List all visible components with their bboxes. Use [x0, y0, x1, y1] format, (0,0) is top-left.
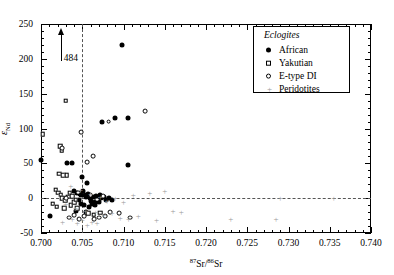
x-minor-tick [223, 230, 224, 233]
data-point-peridotites: + [108, 210, 115, 217]
x-major-tick [124, 227, 125, 233]
x-minor-tick [297, 230, 298, 233]
x-minor-tick [214, 230, 215, 233]
y-major-tick [365, 163, 371, 164]
y-minor-tick [368, 101, 371, 102]
y-minor-tick [41, 219, 44, 220]
y-major-tick [365, 233, 371, 234]
x-minor-tick [280, 230, 281, 233]
x-minor-tick [66, 230, 67, 233]
y-minor-tick [368, 38, 371, 39]
y-major-tick [365, 59, 371, 60]
x-major-tick [247, 227, 248, 233]
y-minor-tick [368, 122, 371, 123]
scatter-plot-figure: 0.7000.7050.7100.7150.7200.7250.7300.735… [0, 0, 394, 275]
x-minor-tick [346, 230, 347, 233]
x-major-tick [124, 24, 125, 30]
data-point-e-type-di [79, 130, 84, 135]
data-point-african [125, 162, 130, 167]
y-minor-tick [368, 52, 371, 53]
legend-label: Peridotites [279, 84, 320, 94]
x-minor-tick [74, 24, 75, 27]
x-major-tick [247, 24, 248, 30]
data-point-peridotites: + [277, 195, 284, 202]
y-major-tick [41, 163, 47, 164]
data-point-peridotites: + [82, 207, 89, 214]
x-minor-tick [115, 24, 116, 27]
y-minor-tick [41, 52, 44, 53]
y-minor-tick [368, 177, 371, 178]
data-point-peridotites: + [153, 217, 160, 224]
x-minor-tick [214, 24, 215, 27]
y-minor-tick [41, 205, 44, 206]
y-tick-label: 0 [2, 193, 33, 203]
data-point-african [119, 42, 124, 47]
data-point-e-type-di [143, 109, 148, 114]
y-minor-tick [41, 142, 44, 143]
x-minor-tick [181, 230, 182, 233]
y-minor-tick [41, 31, 44, 32]
x-minor-tick [272, 230, 273, 233]
data-point-peridotites: + [120, 199, 127, 206]
x-tick-label: 0.725 [237, 238, 258, 248]
y-minor-tick [41, 212, 44, 213]
y-minor-tick [368, 156, 371, 157]
x-minor-tick [355, 230, 356, 233]
x-major-tick [330, 227, 331, 233]
y-minor-tick [41, 122, 44, 123]
x-minor-tick [313, 230, 314, 233]
data-point-african [126, 116, 131, 121]
x-minor-tick [181, 24, 182, 27]
y-major-tick [365, 129, 371, 130]
data-point-peridotites: + [125, 216, 132, 223]
y-tick-label: 150 [2, 89, 33, 99]
y-minor-tick [41, 191, 44, 192]
x-major-tick [165, 227, 166, 233]
y-minor-tick [368, 80, 371, 81]
x-minor-tick [49, 24, 50, 27]
x-minor-tick [148, 230, 149, 233]
x-minor-tick [58, 230, 59, 233]
y-minor-tick [368, 205, 371, 206]
y-minor-tick [41, 115, 44, 116]
x-minor-tick [107, 24, 108, 27]
data-point-african [69, 161, 74, 166]
x-minor-tick [239, 230, 240, 233]
y-major-tick [41, 129, 47, 130]
x-minor-tick [198, 230, 199, 233]
data-point-peridotites: + [273, 216, 280, 223]
data-point-e-type-di [85, 160, 90, 165]
x-minor-tick [231, 24, 232, 27]
x-major-tick [165, 24, 166, 30]
y-minor-tick [368, 73, 371, 74]
y-minor-tick [41, 73, 44, 74]
data-point-yakutian [54, 204, 59, 209]
x-minor-tick [157, 230, 158, 233]
data-point-peridotites: + [161, 188, 168, 195]
y-major-tick [41, 233, 47, 234]
legend-marker-open-circle [266, 74, 271, 79]
x-minor-tick [363, 230, 364, 233]
y-minor-tick [368, 31, 371, 32]
legend-label: African [279, 45, 308, 55]
data-point-peridotites: + [100, 211, 107, 218]
x-major-tick [371, 227, 372, 233]
y-minor-tick [41, 80, 44, 81]
legend-item-yakutian: Yakutian [262, 57, 350, 69]
y-minor-tick [41, 66, 44, 67]
data-point-african [48, 213, 53, 218]
data-point-african [80, 175, 85, 180]
x-minor-tick [148, 24, 149, 27]
x-tick-label: 0.705 [72, 238, 93, 248]
x-minor-tick [256, 230, 257, 233]
y-minor-tick [368, 170, 371, 171]
y-minor-tick [368, 115, 371, 116]
x-tick-label: 0.710 [113, 238, 134, 248]
data-point-peridotites: + [84, 221, 91, 228]
y-minor-tick [368, 66, 371, 67]
x-tick-label: 0.715 [154, 238, 175, 248]
y-minor-tick [41, 108, 44, 109]
legend-marker-open-square [266, 61, 271, 66]
y-minor-tick [368, 135, 371, 136]
x-minor-tick [91, 230, 92, 233]
